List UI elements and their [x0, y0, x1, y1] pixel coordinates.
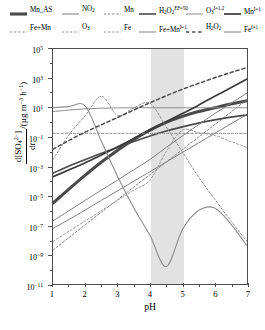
x-tick-7: 7 [241, 290, 255, 299]
legend-item-fe-mn[interactable]: Fe+Mn [10, 20, 51, 37]
legend-label: H2O2EF=50 [159, 5, 188, 16]
legend-item-fe-i-1[interactable]: FeI=1 [224, 20, 258, 37]
legend-label: Fe [124, 25, 131, 32]
x-tick-mark [52, 283, 53, 287]
series-curves [53, 49, 247, 284]
series-line-fe-mn [53, 96, 247, 241]
legend-label: NO2 [82, 6, 95, 14]
legend-label: H2O2 [206, 24, 221, 32]
y-axis-title-unit: /(µg m−3 h−1) [18, 82, 28, 129]
series-line-fe [53, 129, 247, 241]
legend-label: Fe+Mn [30, 25, 51, 32]
x-tick-mark-minor [134, 285, 135, 288]
x-tick-5: 5 [176, 290, 190, 299]
legend-item-o3[interactable]: O3 [62, 20, 90, 37]
x-tick-mark [85, 283, 86, 287]
legend-item-no2[interactable]: NO2 [62, 2, 95, 19]
x-tick-mark [117, 283, 118, 287]
legend-item-mn-i-1[interactable]: MnI=1 [224, 2, 261, 19]
legend-label: MnI=1 [244, 6, 261, 16]
y-tick-109: 10−9 [29, 251, 43, 262]
legend-row-2: Fe+MnO3FeFe+MnI=1H2O2FeI=1 [0, 20, 265, 37]
x-tick-3: 3 [110, 290, 124, 299]
legend-label: Mn [124, 7, 134, 14]
legend-label: Fe+MnI=1 [159, 24, 187, 34]
legend-label: FeI=1 [244, 24, 258, 34]
legend-row-1: Mn_ASNO2MnH2O2EF=50O3I=1.2MnI=1 [0, 2, 265, 19]
y-axis-title: d[SO42−] dt /(µg m−3 h−1) [11, 43, 37, 203]
x-axis-title: pH [52, 302, 248, 312]
x-tick-4: 4 [143, 290, 157, 299]
legend-item-fe-mn-i-1[interactable]: Fe+MnI=1 [139, 20, 187, 37]
legend-item-o3-i-1-2[interactable]: O3I=1.2 [186, 2, 224, 19]
x-axis-tick-labels: 1234567 [52, 287, 248, 301]
legend-label: O3 [82, 24, 90, 32]
legend-item-fe[interactable]: Fe [104, 20, 131, 37]
x-tick-mark [215, 283, 216, 287]
x-tick-1: 1 [45, 290, 59, 299]
legend-label: Mn_AS [30, 7, 52, 14]
legend-item-h2o2-ef-50[interactable]: H2O2EF=50 [139, 2, 188, 19]
series-line-mn-i-1 [53, 79, 247, 177]
legend-item-mn[interactable]: Mn [104, 2, 134, 19]
chart-legend: Mn_ASNO2MnH2O2EF=50O3I=1.2MnI=1 Fe+MnO3F… [0, 0, 265, 40]
x-tick-mark-minor [101, 285, 102, 288]
y-axis-title-numerator: d[SO42−] [11, 129, 27, 164]
x-tick-mark-minor [232, 285, 233, 288]
series-line-fe-mn-i-1 [53, 104, 247, 267]
legend-item-h2o2[interactable]: H2O2 [186, 20, 221, 37]
x-tick-mark-minor [68, 285, 69, 288]
series-line-mn-as [53, 101, 247, 203]
x-tick-mark [183, 283, 184, 287]
y-tick-1011: 10−11 [26, 281, 43, 292]
x-tick-6: 6 [208, 290, 222, 299]
series-line-fe-i-1 [53, 93, 247, 221]
legend-item-mn-as[interactable]: Mn_AS [10, 2, 52, 19]
x-tick-2: 2 [78, 290, 92, 299]
plot-area [52, 48, 248, 285]
legend-label: O3I=1.2 [206, 5, 224, 16]
series-line-mn [53, 100, 247, 250]
x-tick-mark [150, 283, 151, 287]
y-tick-107: 10−7 [29, 222, 43, 233]
x-tick-mark-minor [166, 285, 167, 288]
x-tick-mark-minor [199, 285, 200, 288]
y-axis-title-denominator: dt [27, 129, 37, 164]
figure-sulfate-rate-vs-ph: Mn_ASNO2MnH2O2EF=50O3I=1.2MnI=1 Fe+MnO3F… [0, 0, 265, 330]
x-tick-mark [248, 283, 249, 287]
